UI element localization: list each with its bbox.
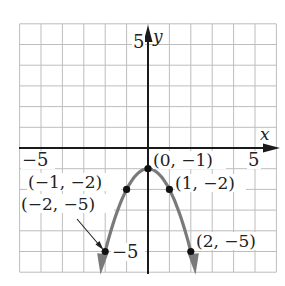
- label-p1: (1, −2): [175, 173, 235, 193]
- point-m1: [123, 186, 130, 193]
- x-axis-arrow-icon: [263, 144, 280, 153]
- point-p2: [187, 248, 194, 255]
- y-tick-5: 5: [133, 31, 144, 52]
- label-p2: (2, −5): [196, 231, 256, 251]
- x-axis-label: x: [260, 124, 270, 144]
- point-vertex: [144, 165, 151, 172]
- parabola-graph: y x 5 −5 5 (0, −1) (−1, −2) (1, −2) (−2,…: [0, 0, 285, 286]
- label-vertex: (0, −1): [153, 150, 213, 170]
- x-tick-neg5: −5: [22, 149, 49, 170]
- curve-arrow-right-icon: [188, 253, 199, 275]
- x-tick-5: 5: [248, 149, 259, 170]
- label-m1: (−1, −2): [28, 172, 102, 192]
- point-m2: [102, 248, 109, 255]
- y-tick-neg5: −5: [112, 241, 139, 262]
- point-p1: [166, 186, 173, 193]
- annotation-leader: [77, 219, 104, 250]
- labels: y x 5 −5 5 (0, −1) (−1, −2) (1, −2) (−2,…: [20, 26, 270, 262]
- y-axis-label: y: [152, 26, 163, 46]
- curve-arrow-left-icon: [97, 253, 108, 275]
- label-m2: (−2, −5): [21, 194, 95, 214]
